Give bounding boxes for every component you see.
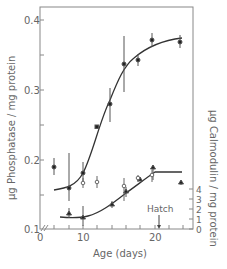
axis-break: [41, 225, 48, 231]
x-axis-label: Age (days): [93, 248, 147, 259]
y-axis-label: µg Phosphatase / mg protein: [6, 56, 17, 200]
calmodulin-open-points: [81, 170, 154, 201]
hatch-label: Hatch: [147, 204, 173, 214]
y-right-axis-label: µg Calmodulin / mg protein: [208, 110, 219, 247]
x-tick-label: 10: [77, 232, 90, 243]
bottom-axis: [54, 225, 183, 229]
y-right-tick-label: 2: [196, 205, 202, 215]
y-right-tick-label: 0: [196, 225, 202, 235]
left-axis: [40, 20, 44, 195]
chart: 0.4 0.3 0.2 0.1 0 10 20 Age (days) 0 1 2…: [0, 0, 227, 269]
y-right-tick-label: 1: [196, 215, 202, 225]
x-tick-label: 0: [37, 232, 43, 243]
y-tick-label: 0.3: [24, 85, 40, 96]
hatch-arrowhead-icon: [157, 225, 161, 229]
y-right-tick-label: 3: [196, 195, 202, 205]
right-axis: [189, 189, 193, 229]
y-tick-label: 0.4: [24, 15, 40, 26]
phosphatase-points: [52, 33, 182, 201]
x-tick-label: 20: [149, 232, 162, 243]
y-right-tick-label: 4: [196, 185, 202, 195]
y-tick-label: 0.2: [24, 155, 40, 166]
phosphatase-fit-curve: [54, 38, 182, 190]
